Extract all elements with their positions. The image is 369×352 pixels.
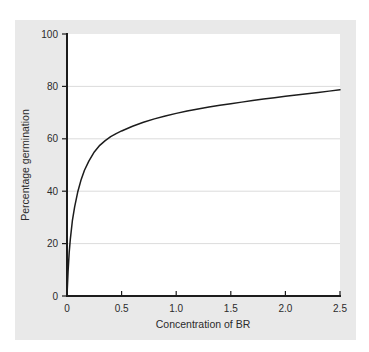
x-tick-label-5: 2.5: [333, 303, 347, 314]
x-tick-label-4: 2.0: [278, 303, 292, 314]
y-tick-label-4: 80: [47, 81, 59, 92]
x-tick-label-0: 0: [64, 303, 70, 314]
y-tick-label-1: 20: [47, 238, 59, 249]
x-axis-title: Concentration of BR: [156, 318, 251, 330]
x-tick-label-2: 1.0: [169, 303, 183, 314]
x-tick-label-3: 1.5: [224, 303, 238, 314]
y-tick-label-0: 0: [52, 291, 58, 302]
x-axis-tick-labels: 00.51.01.52.02.5: [64, 303, 347, 314]
x-tick-label-1: 0.5: [115, 303, 129, 314]
y-tick-label-3: 60: [47, 133, 59, 144]
plot-area-background: [67, 34, 340, 296]
y-axis-tick-labels: 020406080100: [41, 29, 58, 302]
y-tick-label-2: 40: [47, 186, 59, 197]
y-axis-title: Percentage germination: [19, 109, 31, 221]
figure-panel: 00.51.01.52.02.5 020406080100 Concentrat…: [15, 20, 356, 340]
y-tick-label-5: 100: [41, 29, 58, 40]
germination-concentration-chart: 00.51.01.52.02.5 020406080100 Concentrat…: [15, 20, 356, 340]
